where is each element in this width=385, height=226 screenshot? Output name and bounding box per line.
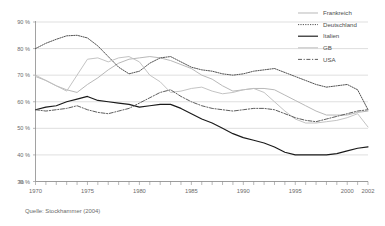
x-axis-ticks-group — [36, 182, 369, 186]
x-tick-label-1995: 1995 — [289, 188, 302, 194]
series-line-gb — [36, 57, 369, 127]
x-tick-label-1985: 1985 — [185, 188, 198, 194]
y-axis-ticks-group: 30 %40 %50 %60 %70 %80 %90 % — [17, 19, 35, 185]
x-tick-label-1975: 1975 — [81, 188, 94, 194]
y-tick-label-90: 90 % — [17, 19, 30, 25]
x-tick-label-1970: 1970 — [29, 188, 42, 194]
y-tick-label-40: 40 % — [17, 152, 30, 158]
legend: FrankreichDeutschlandItalienGBUSA — [298, 9, 357, 62]
series-line-italien — [36, 96, 369, 154]
legend-label-gb: GB — [323, 44, 332, 51]
series-line-deutschland — [36, 35, 369, 109]
legend-label-deutschland: Deutschland — [323, 21, 357, 28]
x-tick-label-2000: 2000 — [341, 188, 354, 194]
y-axis-unit: % — [19, 179, 24, 185]
y-tick-label-60: 60 % — [17, 99, 30, 105]
data-series-group — [36, 35, 369, 155]
x-tick-label-1990: 1990 — [237, 188, 250, 194]
y-tick-label-70: 70 % — [17, 72, 30, 78]
gridlines-group — [36, 22, 369, 182]
x-tick-label-1980: 1980 — [133, 188, 146, 194]
chart-canvas: 30 %40 %50 %60 %70 %80 %90 % 19701975198… — [0, 0, 385, 226]
y-tick-label-50: 50 % — [17, 125, 30, 131]
series-line-usa — [36, 90, 369, 122]
x-tick-label-2002: 2002 — [362, 188, 375, 194]
legend-label-usa: USA — [323, 56, 336, 63]
y-axis-unit-label: % — [19, 179, 24, 185]
y-tick-label-80: 80 % — [17, 46, 30, 52]
legend-label-italien: Italien — [323, 32, 339, 39]
wage-share-line-chart: 30 %40 %50 %60 %70 %80 %90 % 19701975198… — [0, 0, 385, 226]
x-axis-tick-labels-group: 19701975198019851990199520002002 — [29, 188, 374, 194]
series-line-frankreich — [36, 57, 369, 115]
legend-label-frankreich: Frankreich — [323, 9, 352, 16]
